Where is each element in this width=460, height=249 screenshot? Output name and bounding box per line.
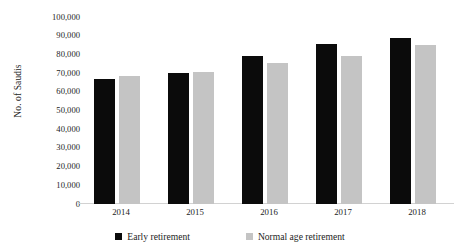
y-axis-tick-labels: 010,00020,00030,00040,00050,00060,00070,… [24, 0, 80, 249]
x-axis-tick-label: 2017 [306, 207, 380, 218]
y-axis-tick-label: 70,000 [24, 69, 80, 78]
bar-early-retirement-2018 [390, 38, 411, 204]
chart-legend: Early retirementNormal age retirement [0, 228, 460, 244]
y-axis-tick-label: 80,000 [24, 50, 80, 59]
legend-item[interactable]: Early retirement [115, 231, 190, 242]
x-axis-tick-label: 2014 [84, 207, 158, 218]
x-axis-tick-label: 2016 [232, 207, 306, 218]
bar-normal-age-retirement-2015 [193, 72, 214, 204]
legend-swatch-icon [115, 233, 122, 240]
y-axis-tick-label: 50,000 [24, 106, 80, 115]
bar-normal-age-retirement-2018 [415, 45, 436, 204]
bar-normal-age-retirement-2017 [341, 56, 362, 204]
bar-early-retirement-2017 [316, 44, 337, 204]
legend-item[interactable]: Normal age retirement [246, 231, 345, 242]
y-axis-tick-label: 60,000 [24, 87, 80, 96]
bar-early-retirement-2015 [168, 73, 189, 204]
x-axis-tick-labels: 20142015201620172018 [84, 207, 454, 223]
bar-group [158, 17, 232, 204]
y-axis-tick-label: 0 [24, 200, 80, 209]
y-axis-tick-label: 100,000 [24, 13, 80, 22]
y-axis-tick-label: 40,000 [24, 125, 80, 134]
x-axis-tick-label: 2015 [158, 207, 232, 218]
bar-normal-age-retirement-2016 [267, 63, 288, 204]
bar-normal-age-retirement-2014 [119, 76, 140, 204]
y-axis-tick-label: 90,000 [24, 31, 80, 40]
y-axis-tick-label: 20,000 [24, 162, 80, 171]
y-axis-tick-label: 30,000 [24, 143, 80, 152]
bar-group [380, 17, 454, 204]
bar-early-retirement-2016 [242, 56, 263, 204]
y-axis-title: No. of Saudis [13, 41, 23, 141]
plot-area [84, 17, 454, 204]
y-axis-tick-label: 10,000 [24, 181, 80, 190]
x-axis-tick-label: 2018 [380, 207, 454, 218]
bar-chart: No. of Saudis 010,00020,00030,00040,0005… [0, 0, 460, 249]
bar-group [232, 17, 306, 204]
legend-item-label: Early retirement [127, 231, 190, 242]
bar-early-retirement-2014 [94, 79, 115, 204]
bar-group [306, 17, 380, 204]
legend-swatch-icon [246, 233, 253, 240]
legend-item-label: Normal age retirement [258, 231, 345, 242]
bar-group [84, 17, 158, 204]
